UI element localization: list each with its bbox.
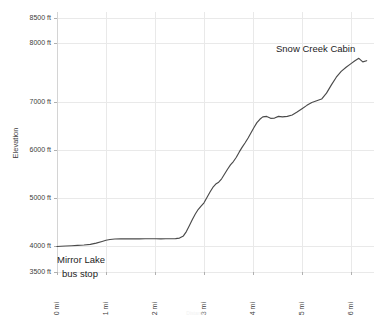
y-tick-label-5000: 5000 ft — [30, 194, 51, 201]
x-tick-label-6mi: 6 mi — [347, 302, 354, 316]
elevation-profile-chart: 8500 ft 8000 ft 7000 ft 6000 ft 5000 ft … — [0, 0, 380, 320]
x-tick-label-0mi: 0 mi — [53, 302, 60, 316]
y-tick-label-6000: 6000 ft — [30, 146, 51, 153]
annotation-mirror-lake-line1: Mirror Lake — [57, 254, 105, 265]
y-tick-label-7000: 7000 ft — [30, 98, 51, 105]
annotation-mirror-lake-line2: bus stop — [62, 268, 98, 279]
annotation-snow-creek-cabin: Snow Creek Cabin — [276, 43, 355, 54]
y-axis-title: Elevation — [11, 128, 20, 159]
chart-canvas: 8500 ft 8000 ft 7000 ft 6000 ft 5000 ft … — [0, 0, 380, 320]
y-gridlines — [57, 18, 374, 272]
y-tick-label-4000: 4000 ft — [30, 242, 51, 249]
x-tick-label-5mi: 5 mi — [298, 302, 305, 316]
x-tick-label-2mi: 2 mi — [151, 302, 158, 316]
x-tick-label-4mi: 4 mi — [249, 302, 256, 316]
elevation-series-line — [57, 58, 367, 246]
x-axis-title: Distance — [186, 310, 206, 316]
x-tick-label-1mi: 1 mi — [102, 302, 109, 316]
y-tick-label-8000: 8000 ft — [30, 39, 51, 46]
y-tick-labels: 8500 ft 8000 ft 7000 ft 6000 ft 5000 ft … — [30, 14, 51, 275]
y-tick-label-3500: 3500 ft — [30, 268, 51, 275]
y-tick-label-8500: 8500 ft — [30, 14, 51, 21]
